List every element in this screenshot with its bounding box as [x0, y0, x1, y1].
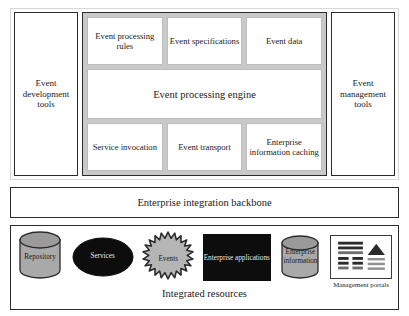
label-line-1: Event — [352, 78, 373, 88]
service-invocation-label: Service invocation — [91, 142, 159, 152]
event-processing-platform: Event development tools Event processing… — [10, 8, 399, 180]
event-development-tools-box: Event development tools — [14, 12, 78, 176]
enterprise-information-shape-wrap: Enterprise information — [279, 231, 321, 283]
enterprise-information-caching-box: Enterprise information caching — [246, 123, 322, 171]
portal-glyph — [331, 236, 391, 278]
event-specifications-box: Event specifications — [167, 17, 243, 65]
event-data-label: Event data — [264, 36, 305, 46]
enterprise-information-caching-label: Enterprise information caching — [247, 137, 321, 158]
label-line-2: management — [340, 89, 386, 99]
architecture-diagram: Event development tools Event processing… — [0, 0, 409, 316]
resource-item-services: Services — [72, 231, 134, 281]
enterprise-integration-backbone-box: Enterprise integration backbone — [10, 187, 399, 218]
label-line-1: Event — [36, 78, 57, 88]
resource-item-enterprise-applications: Enterprise applications — [203, 231, 271, 281]
integrated-resources-box: Repository Services Events — [10, 225, 399, 310]
management-portals-label: Management portals — [333, 281, 389, 288]
starburst-icon — [142, 231, 194, 283]
event-data-box: Event data — [246, 17, 322, 65]
event-processing-rules-box: Event processing rules — [87, 17, 163, 65]
enterprise-applications-label: Enterprise applications — [203, 253, 271, 262]
resource-item-events: Events — [142, 231, 194, 287]
window-icon — [330, 235, 392, 279]
engine-top-row: Event processing rules Event specificati… — [87, 17, 322, 65]
label-line-3: tools — [37, 99, 55, 109]
engine-bottom-row: Service invocation Event transport Enter… — [87, 123, 322, 171]
events-shape-wrap: Events — [142, 231, 194, 287]
resource-item-repository: Repository — [17, 231, 63, 283]
enterprise-integration-backbone-label: Enterprise integration backbone — [137, 197, 271, 208]
event-management-tools-label: Event management tools — [337, 78, 389, 111]
ellipse-icon — [72, 237, 134, 277]
resource-item-enterprise-information: Enterprise information — [279, 231, 321, 283]
event-development-tools-label: Event development tools — [20, 78, 73, 111]
event-transport-box: Event transport — [167, 123, 243, 171]
resource-icon-row: Repository Services Events — [17, 231, 392, 287]
event-processing-engine-label: Event processing engine — [153, 89, 256, 100]
event-transport-label: Event transport — [176, 142, 233, 152]
rectangle-icon: Enterprise applications — [203, 234, 271, 281]
services-shape-wrap: Services — [72, 231, 134, 281]
cylinder-icon — [279, 235, 321, 279]
event-processing-rules-label: Event processing rules — [88, 31, 162, 52]
integrated-resources-caption: Integrated resources — [17, 288, 392, 299]
repository-shape-wrap: Repository — [17, 231, 63, 283]
event-management-tools-box: Event management tools — [331, 12, 395, 176]
event-processing-engine-box: Event processing engine — [87, 69, 322, 119]
resource-item-management-portals: Management portals — [330, 231, 392, 288]
event-specifications-label: Event specifications — [168, 36, 241, 46]
label-line-3: tools — [354, 99, 372, 109]
service-invocation-box: Service invocation — [87, 123, 163, 171]
cylinder-icon — [17, 231, 63, 279]
label-line-2: development — [23, 89, 70, 99]
event-processing-engine-group: Event processing rules Event specificati… — [82, 12, 327, 176]
